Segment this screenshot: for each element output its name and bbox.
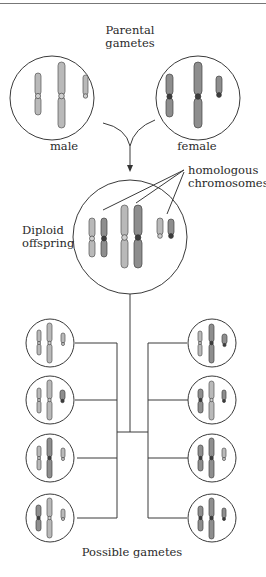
gamete-right-1 — [188, 319, 236, 367]
parental-gametes-label-2: gametes — [105, 36, 154, 50]
male-label: male — [50, 139, 78, 153]
pointer-pair-2 — [136, 170, 184, 203]
pointer-pair-1 — [103, 170, 184, 210]
meiosis-diagram: Parental gametes male female homologous … — [0, 0, 266, 577]
possible-gametes-label: Possible gametes — [82, 545, 183, 559]
diploid-label-2: offspring — [22, 236, 75, 250]
homologous-label-2: chromosomes — [188, 176, 266, 190]
parental-gametes-label: Parental — [106, 23, 155, 37]
female-gamete — [156, 56, 240, 140]
gamete-left-1 — [26, 319, 74, 367]
homologous-label: homologous — [188, 163, 258, 177]
gamete-right-4 — [188, 494, 236, 542]
female-label: female — [177, 139, 217, 153]
gamete-right-2 — [188, 376, 236, 424]
pointer-pair-3 — [167, 172, 184, 214]
fertilization-curve-left — [103, 123, 130, 146]
gamete-left-3 — [26, 434, 74, 482]
gamete-right-3 — [188, 434, 236, 482]
diploid-label: Diploid — [22, 223, 65, 237]
arrow-down-icon — [127, 165, 133, 172]
gamete-left-2 — [26, 376, 74, 424]
gamete-left-4 — [26, 494, 74, 542]
male-gamete — [10, 56, 94, 140]
segregation-tree — [75, 294, 188, 518]
fertilization-curve-right — [130, 120, 155, 146]
